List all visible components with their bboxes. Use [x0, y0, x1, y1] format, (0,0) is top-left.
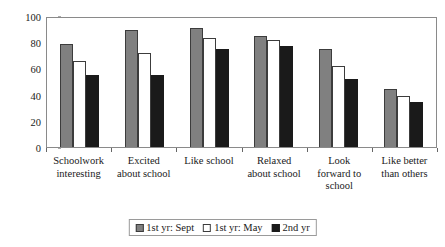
x-axis-category-labels: SchoolworkinterestingExcitedabout school…	[46, 155, 437, 205]
bar	[73, 61, 86, 147]
legend-item: 2nd yr	[272, 222, 310, 233]
y-axis-tick-label: 40	[31, 90, 42, 101]
bar	[410, 102, 423, 147]
x-axis-tick-mark	[242, 148, 243, 152]
legend-swatch-icon	[272, 224, 280, 232]
bar-group	[177, 18, 242, 147]
category-label-line: Look	[308, 155, 371, 168]
bar-group	[47, 18, 112, 147]
category-label-line: Relaxed	[243, 155, 306, 168]
category-label-line: about school	[243, 168, 306, 181]
y-axis-tick-label: 0	[36, 143, 41, 154]
x-axis-category-label: Lookforward toschool	[307, 155, 372, 205]
bar	[216, 49, 229, 147]
legend-label: 1st yr: May	[214, 222, 262, 233]
plot-area	[46, 17, 437, 148]
category-label-line: than others	[373, 168, 436, 181]
bar	[345, 79, 358, 147]
bar	[151, 75, 164, 147]
x-axis-category-label: Relaxedabout school	[242, 155, 307, 205]
category-label-line: school	[308, 180, 371, 193]
bar	[203, 38, 216, 147]
x-axis-tick-mark	[307, 148, 308, 152]
bar	[319, 49, 332, 147]
legend-label: 2nd yr	[283, 222, 310, 233]
category-label-line: forward to	[308, 168, 371, 181]
bar	[267, 40, 280, 147]
bar	[332, 66, 345, 147]
x-axis-tick-mark	[46, 148, 47, 152]
legend-swatch-icon	[135, 224, 143, 232]
x-axis-tick-marks	[46, 148, 437, 152]
x-axis-category-label: Like school	[176, 155, 241, 205]
x-axis-tick-mark	[437, 148, 438, 152]
category-label-line: about school	[112, 168, 175, 181]
bar-group	[241, 18, 306, 147]
bar	[60, 44, 73, 147]
y-axis-tick-label: 80	[31, 38, 42, 49]
category-label-line: Like better	[373, 155, 436, 168]
bar-group	[371, 18, 436, 147]
bar-group	[306, 18, 371, 147]
bar	[254, 36, 267, 147]
legend-swatch-icon	[203, 224, 211, 232]
x-axis-tick-mark	[176, 148, 177, 152]
category-label-line: Excited	[112, 155, 175, 168]
y-axis-tick-label: 20	[31, 116, 42, 127]
bar	[397, 96, 410, 147]
bar	[138, 53, 151, 147]
category-label-line: Like school	[177, 155, 240, 168]
x-axis-category-label: Schoolworkinteresting	[46, 155, 111, 205]
legend-label: 1st yr: Sept	[146, 222, 194, 233]
bar-group	[112, 18, 177, 147]
x-axis-tick-mark	[111, 148, 112, 152]
x-axis-category-label: Excitedabout school	[111, 155, 176, 205]
bar	[190, 28, 203, 147]
bar-chart: % (Strongly) Agree 020406080100 Schoolwo…	[0, 0, 445, 247]
bar-groups-container	[47, 18, 436, 147]
chart-legend: 1st yr: Sept1st yr: May2nd yr	[128, 219, 316, 236]
category-label-line: Schoolwork	[47, 155, 110, 168]
legend-item: 1st yr: Sept	[135, 222, 194, 233]
y-axis-tick-label: 100	[25, 12, 41, 23]
y-axis-tick-labels: 020406080100	[14, 17, 44, 148]
category-label-line: interesting	[47, 168, 110, 181]
x-axis-tick-mark	[372, 148, 373, 152]
bar	[125, 30, 138, 147]
x-axis-category-label: Like betterthan others	[372, 155, 437, 205]
bar	[384, 89, 397, 147]
bar	[280, 46, 293, 147]
legend-item: 1st yr: May	[203, 222, 262, 233]
bar	[86, 75, 99, 147]
y-axis-tick-label: 60	[31, 64, 42, 75]
